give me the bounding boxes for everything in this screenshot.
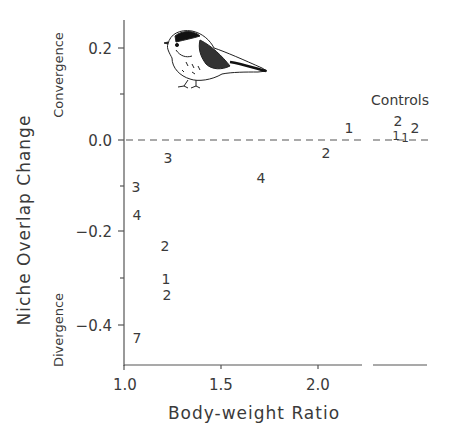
bird-illustration bbox=[164, 31, 267, 88]
divergence-label: Divergence bbox=[51, 293, 66, 367]
control-point: 2 bbox=[394, 113, 403, 129]
data-point: 1 bbox=[345, 120, 354, 136]
control-point: 1 bbox=[401, 131, 409, 145]
scatter-chart: 0.2 0.0 −0.2 −0.4 1.0 1.5 2.0 Body-weigh… bbox=[0, 0, 452, 436]
x-tick-label: 2.0 bbox=[306, 376, 330, 394]
data-point: 3 bbox=[132, 179, 141, 195]
convergence-label: Convergence bbox=[51, 32, 66, 118]
control-point: 1 bbox=[392, 129, 400, 143]
data-point: 3 bbox=[164, 150, 173, 166]
data-point: 2 bbox=[322, 145, 331, 161]
x-tick-label: 1.5 bbox=[209, 376, 233, 394]
data-point: 4 bbox=[257, 170, 266, 186]
data-point: 2 bbox=[163, 287, 172, 303]
x-axis-title: Body-weight Ratio bbox=[168, 403, 340, 423]
y-tick-label: −0.4 bbox=[76, 317, 112, 335]
data-point: 2 bbox=[161, 238, 170, 254]
control-point: 2 bbox=[411, 120, 420, 136]
y-tick-label: 0.2 bbox=[88, 40, 112, 58]
y-tick-label: 0.0 bbox=[88, 132, 112, 150]
controls-label: Controls bbox=[371, 92, 429, 108]
data-point: 1 bbox=[162, 271, 171, 287]
data-point: 4 bbox=[133, 207, 142, 223]
y-axis-title: Niche Overlap Change bbox=[14, 115, 34, 326]
x-tick-label: 1.0 bbox=[113, 376, 137, 394]
data-point: 7 bbox=[133, 330, 142, 346]
y-tick-label: −0.2 bbox=[76, 223, 112, 241]
